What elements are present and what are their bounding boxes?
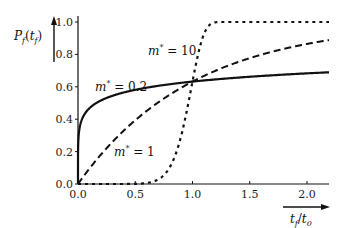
curves [78,22,329,184]
curve-dashed [78,40,329,184]
weibull-failure-chart: 0.00.20.40.60.81.00.00.51.01.52.0 Pf(tf)… [0,0,337,228]
x-tick-label: 1.0 [184,188,202,201]
x-axis-label: tf/t0 [290,212,312,228]
annotation-m-10: m* = 10 [148,43,196,58]
y-axis-label: Pf(tf) [13,29,42,45]
x-arrow-head-icon [321,204,330,210]
x-tick-label: 0.0 [69,188,87,201]
x-tick-label: 2.0 [298,188,316,201]
y-tick-label: 0.2 [56,146,74,159]
y-tick-label: 1.0 [56,16,74,29]
annotation-m-0-2: m* = 0.2 [95,79,147,94]
y-tick-label: 0.4 [56,113,74,126]
x-tick-label: 0.5 [127,188,145,201]
x-tick-label: 1.5 [241,188,259,201]
curve-dotted [78,22,329,184]
y-tick-label: 0.6 [56,81,74,94]
annotation-m-1: m* = 1 [114,144,155,159]
y-tick-label: 0.8 [56,48,74,61]
